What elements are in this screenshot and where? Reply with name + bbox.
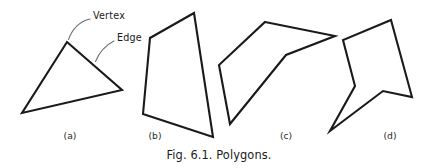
vertex-leader-line [69,19,91,40]
polygon-c-label: (c) [280,130,292,141]
edge-leader-line [96,41,115,62]
polygon-b-label: (b) [148,130,161,141]
polygon-c [219,22,335,124]
polygon-d-label: (d) [383,130,396,141]
edge-label: Edge [117,32,142,43]
vertex-label: Vertex [93,10,125,21]
figure-caption: Fig. 6.1. Polygons. [167,148,272,162]
polygon-a [22,42,122,113]
figure-polygons: Vertex Edge (a) (b) (c) (d) Fig. 6.1. Po… [0,0,435,168]
polygon-d [330,20,412,131]
polygon-a-label: (a) [64,130,77,141]
polygon-b [143,13,213,137]
figure-canvas: Vertex Edge (a) (b) (c) (d) Fig. 6.1. Po… [0,0,435,168]
